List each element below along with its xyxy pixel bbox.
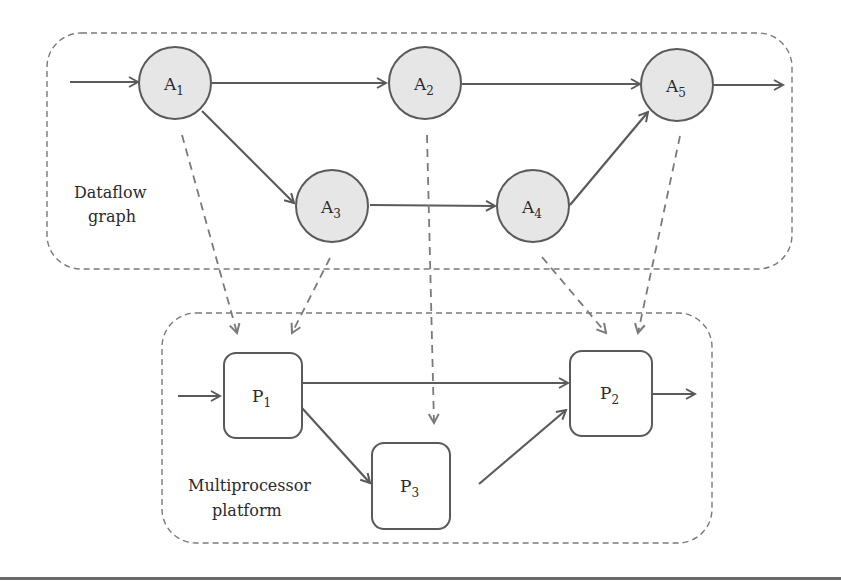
actor-a5: A5 (641, 49, 713, 121)
edge-a4-a5 (570, 112, 648, 205)
dataflow-graph-label: Dataflow graph (74, 183, 151, 226)
actor-a4-sub: 4 (534, 207, 542, 221)
actor-a2-letter: A (413, 74, 427, 94)
edge-a1-a3 (202, 111, 294, 203)
processor-p2: P2 (570, 351, 652, 436)
bottom-divider (0, 577, 841, 580)
processor-p2-letter: P (600, 383, 611, 403)
actor-a3: A3 (296, 170, 368, 242)
processor-p3-letter: P (400, 476, 411, 496)
edge-p1-p3 (302, 408, 370, 483)
dataflow-label-line1: Dataflow (74, 183, 147, 202)
processor-p3-sub: 3 (411, 486, 419, 500)
actor-a3-sub: 3 (333, 207, 341, 221)
processor-p1-sub: 1 (263, 396, 271, 410)
edge-a3-a4 (370, 205, 495, 206)
processor-p1: P1 (224, 353, 302, 438)
actor-a5-sub: 5 (678, 86, 686, 100)
actor-a2: A2 (389, 47, 461, 119)
processor-p2-sub: 2 (611, 393, 619, 407)
processor-p3: P3 (372, 443, 450, 529)
actor-a1-sub: 1 (176, 84, 184, 98)
actor-a4: A4 (497, 170, 569, 242)
processor-p1-letter: P (252, 386, 263, 406)
dataflow-label-line2: graph (88, 207, 136, 226)
dataflow-mapping-diagram: A1 A2 A3 A4 A5 P1 P2 P3 Dataflow graph M… (0, 0, 841, 581)
mapping-a5-p2 (638, 136, 680, 333)
actor-a2-sub: 2 (426, 84, 434, 98)
actor-a1-letter: A (163, 74, 177, 94)
actor-a4-letter: A (521, 197, 535, 217)
multiprocessor-platform-label: Multiprocessor platform (188, 476, 316, 520)
edge-p3-p2 (479, 410, 566, 484)
actor-a1: A1 (139, 47, 211, 119)
mapping-a2-p3 (427, 135, 434, 423)
actor-a3-letter: A (320, 197, 334, 217)
platform-label-line2: platform (212, 501, 282, 520)
actor-a5-letter: A (665, 76, 679, 96)
platform-label-line1: Multiprocessor (188, 476, 311, 495)
mapping-a1-p1 (182, 135, 237, 333)
